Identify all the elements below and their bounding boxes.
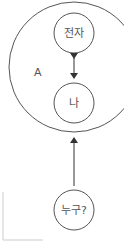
node-me-label: 나 [69,97,79,110]
node-who-label: 누구? [61,204,87,217]
diagram-canvas: A 전자 나 누구? [0,0,124,243]
node-who: 누구? [54,190,94,230]
node-me: 나 [54,83,94,123]
corner-bracket [3,192,43,240]
node-electron-label: 전자 [64,27,84,40]
node-electron: 전자 [54,13,94,53]
region-label-a: A [34,66,42,79]
